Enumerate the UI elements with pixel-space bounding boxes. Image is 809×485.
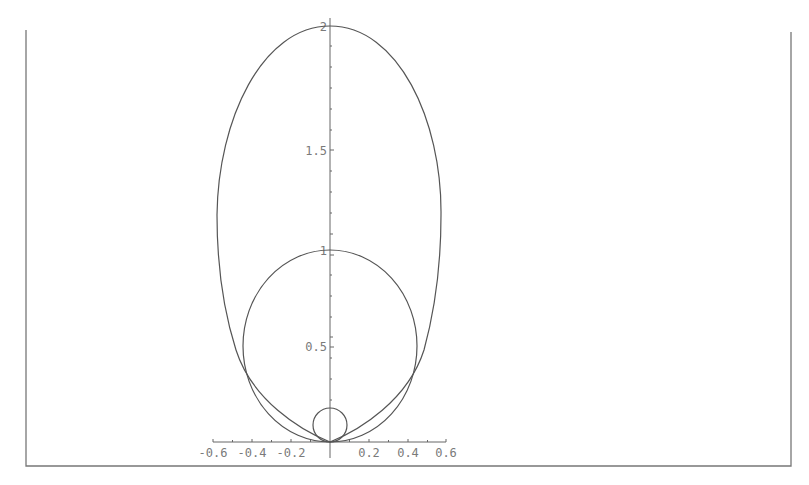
- y-tick-labels: 0.5 1 1.5 2: [305, 20, 327, 354]
- x-tick-label: 0.4: [397, 446, 419, 460]
- x-tick-label: -0.4: [238, 446, 267, 460]
- x-tick-labels: -0.6 -0.4 -0.2 0.2 0.4 0.6: [199, 446, 457, 460]
- x-tick-label: -0.6: [199, 446, 228, 460]
- curves: [217, 26, 441, 442]
- plot-frame: [26, 30, 791, 466]
- polar-plot: -0.6 -0.4 -0.2 0.2 0.4 0.6 0.5 1 1.5 2: [0, 0, 809, 485]
- y-axis-ticks: [330, 46, 334, 400]
- y-tick-label: 1.5: [305, 144, 327, 158]
- x-tick-label: -0.2: [277, 446, 306, 460]
- x-tick-label: 0.2: [358, 446, 380, 460]
- outer-ellipse-curve: [217, 26, 441, 442]
- y-tick-label: 0.5: [305, 340, 327, 354]
- x-tick-label: 0.6: [435, 446, 457, 460]
